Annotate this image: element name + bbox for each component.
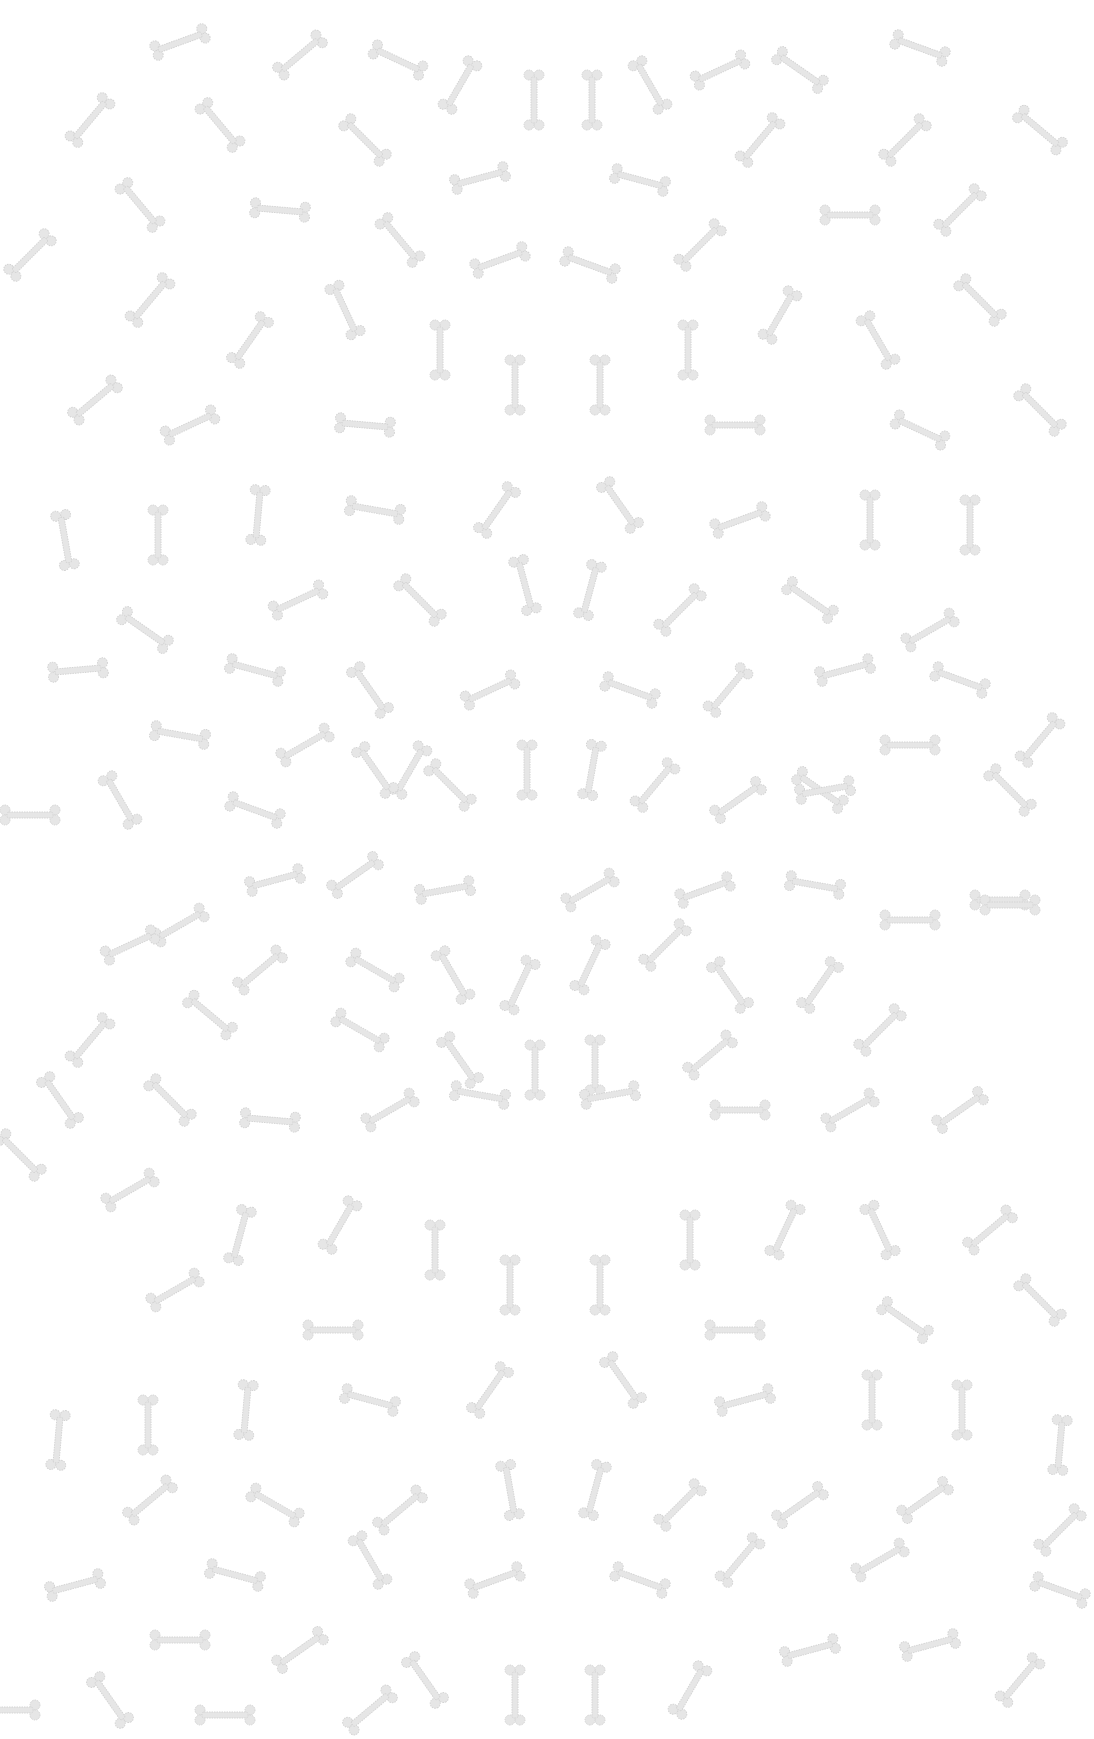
bone-icon — [322, 848, 387, 903]
bone-icon — [524, 1038, 546, 1102]
bone-icon — [228, 941, 291, 999]
bone-icon — [338, 1681, 401, 1739]
bone-icon — [237, 1106, 303, 1133]
bone-icon — [247, 196, 313, 223]
bone-icon — [364, 37, 431, 84]
bone-icon — [0, 804, 62, 826]
bone-icon — [927, 1083, 992, 1138]
bone-icon — [398, 1647, 453, 1712]
bone-icon — [793, 952, 848, 1017]
bone-icon — [861, 1368, 883, 1432]
bone-icon — [523, 68, 545, 132]
bone-icon — [118, 1471, 181, 1529]
bone-icon — [0, 225, 60, 286]
bone-icon — [875, 110, 936, 171]
bone-icon — [624, 52, 675, 118]
bone-icon — [703, 414, 767, 436]
bone-icon — [147, 719, 214, 752]
bone-icon — [581, 68, 603, 132]
bone-icon — [424, 1218, 446, 1282]
bone-icon — [506, 551, 544, 619]
bone-icon — [951, 1378, 973, 1442]
bone-icon — [878, 734, 942, 756]
bone-icon — [703, 1319, 767, 1341]
bone-icon — [461, 1559, 529, 1602]
bone-icon — [111, 173, 169, 236]
bone-icon — [978, 894, 1042, 916]
bone-icon — [112, 603, 177, 658]
bone-icon — [41, 1566, 109, 1604]
bone-icon — [776, 1631, 844, 1669]
bone-icon — [857, 1196, 904, 1263]
bone-icon — [232, 1377, 259, 1443]
bone-icon — [96, 922, 163, 969]
bone-icon — [371, 208, 429, 271]
bone-icon — [980, 760, 1041, 821]
bone-icon — [272, 719, 338, 770]
bone-icon — [357, 1084, 423, 1135]
bone-icon — [494, 1457, 527, 1524]
bone-icon — [567, 931, 614, 998]
bone-icon — [137, 1393, 159, 1457]
bone-icon — [959, 493, 981, 557]
bone-icon — [434, 52, 485, 118]
bone-icon — [754, 282, 805, 348]
bone-icon — [708, 1099, 772, 1121]
bone-icon — [463, 1357, 518, 1422]
bone-icon — [178, 986, 241, 1044]
bone-icon — [817, 1084, 883, 1135]
bone-icon — [872, 1293, 937, 1348]
bone-icon — [332, 411, 398, 438]
bone-icon — [767, 43, 832, 98]
bone-icon — [650, 1475, 711, 1536]
bone-icon — [589, 1253, 611, 1317]
bone-icon — [314, 1192, 365, 1258]
bone-icon — [322, 276, 369, 343]
bone-icon — [635, 915, 696, 976]
bone-icon — [1011, 708, 1069, 771]
bone-icon — [896, 1626, 964, 1664]
bone-icon — [679, 1208, 701, 1272]
bone-icon — [97, 1164, 163, 1215]
bone-icon — [221, 789, 289, 832]
bone-icon — [711, 1528, 769, 1591]
bone-icon — [1008, 101, 1071, 159]
bone-icon — [241, 861, 309, 899]
bone-icon — [557, 864, 623, 915]
bone-icon — [847, 1534, 913, 1585]
bone-icon — [1046, 1412, 1073, 1478]
bone-icon — [504, 353, 526, 417]
bone-icon — [767, 1478, 832, 1533]
bone-icon — [121, 268, 179, 331]
bone-icon — [146, 21, 214, 64]
bone-icon — [556, 244, 624, 287]
bone-icon — [301, 1319, 365, 1341]
bone-icon — [466, 239, 534, 282]
bone-icon — [427, 942, 478, 1008]
bone-icon — [859, 488, 881, 552]
bone-icon — [711, 1381, 779, 1419]
bone-icon — [958, 1201, 1021, 1259]
bone-icon — [447, 1079, 514, 1112]
bone-icon — [63, 371, 126, 429]
bone-icon — [950, 270, 1011, 331]
bone-icon — [818, 204, 882, 226]
bone-icon — [348, 737, 403, 802]
bone-icon — [61, 88, 119, 151]
bone-icon — [878, 909, 942, 931]
bone-icon — [497, 951, 544, 1018]
bone-icon — [1030, 1500, 1091, 1561]
bone-icon — [221, 651, 289, 689]
bone-icon — [201, 1556, 269, 1594]
bone-icon — [242, 1479, 308, 1530]
bone-icon — [335, 110, 396, 171]
bone-icon — [677, 318, 699, 382]
bone-icon — [1010, 1270, 1071, 1331]
bone-icon — [191, 93, 249, 156]
bone-icon — [650, 580, 711, 641]
bone-icon — [61, 1008, 119, 1071]
bone-icon — [446, 159, 514, 197]
bone-icon — [886, 27, 954, 70]
bone-icon — [584, 1663, 606, 1727]
bone-icon — [456, 667, 523, 714]
